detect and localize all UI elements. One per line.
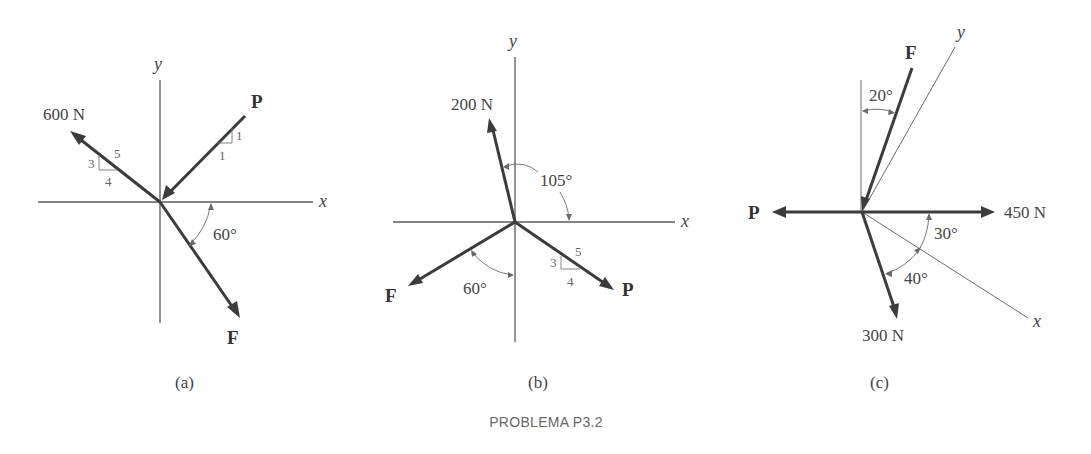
- angle-arc-b1: [505, 164, 538, 172]
- arc-arrowhead-icon: [885, 270, 892, 277]
- angle-label-b1: 105°: [540, 171, 572, 190]
- arc-arrowhead-icon: [471, 250, 477, 257]
- arc-arrowhead-icon: [566, 214, 572, 221]
- arc-arrowhead-icon: [508, 272, 514, 278]
- arrowhead-icon: [889, 303, 899, 319]
- slope-hyp-a1: 5: [114, 146, 121, 161]
- force-p-b: [515, 222, 607, 285]
- force-label-f-b: F: [385, 285, 397, 306]
- y-axis-label-b: y: [507, 31, 517, 51]
- slope-hyp-b: 5: [575, 244, 582, 259]
- slope-run-a1: 4: [105, 174, 112, 189]
- force-label-f-c: F: [905, 42, 917, 63]
- x-axis-label-c: x: [1032, 311, 1041, 331]
- y-axis-label-a: y: [152, 54, 162, 74]
- angle-label-b2: 60°: [463, 279, 487, 298]
- force-f-a: [160, 202, 236, 312]
- arrowhead-icon: [772, 206, 786, 218]
- angle-label-c1: 20°: [869, 86, 893, 105]
- arrowhead-icon: [599, 277, 614, 290]
- arc-arrowhead-icon: [862, 108, 868, 114]
- force-label-600n-a: 600 N: [43, 105, 85, 124]
- force-300n-c: [862, 212, 895, 310]
- panel-c: y x F 20° P 450 N 30° 300 N 40° (c: [748, 22, 1046, 392]
- slope-rise-a2: 1: [236, 128, 243, 143]
- figure-canvas: y x 600 N 3 4 5 P 1 1 F 60° (a) y x: [0, 0, 1091, 454]
- arc-arrowhead-icon: [208, 203, 214, 210]
- force-label-f-a: F: [227, 327, 239, 348]
- panel-b: y x 200 N 105° F 60° P 3 4 5 (b): [385, 31, 689, 392]
- arc-arrowhead-icon: [503, 163, 509, 170]
- slope-run-b: 4: [567, 274, 574, 289]
- force-label-p-a: P: [251, 91, 263, 112]
- slope-run-a2: 1: [219, 148, 226, 163]
- force-label-p-c: P: [748, 202, 760, 223]
- x-axis-label-a: x: [318, 191, 327, 211]
- caption-b: (b): [528, 373, 548, 392]
- force-label-200n-b: 200 N: [451, 95, 493, 114]
- arrowhead-icon: [408, 274, 423, 286]
- caption-c: (c): [870, 373, 889, 392]
- panel-a: y x 600 N 3 4 5 P 1 1 F 60° (a): [38, 54, 327, 392]
- caption-a: (a): [175, 373, 194, 392]
- arc-arrowhead-icon: [914, 247, 921, 254]
- angle-arc-b2: [472, 252, 512, 275]
- force-label-p-b: P: [622, 279, 634, 300]
- angle-label-c3: 40°: [904, 269, 928, 288]
- angle-arc-a: [190, 204, 211, 244]
- y-axis-label-c: y: [955, 22, 965, 42]
- force-label-450n-c: 450 N: [1004, 203, 1046, 222]
- figure-title: PROBLEMA P3.2: [489, 414, 603, 430]
- force-200n-b: [492, 126, 515, 222]
- arc-arrowhead-icon: [189, 239, 196, 246]
- arrowhead-icon: [981, 206, 995, 218]
- force-p-a: [167, 116, 245, 195]
- angle-label-c2: 30°: [934, 224, 958, 243]
- slope-rise-a1: 3: [88, 156, 95, 171]
- force-f-b: [415, 222, 515, 282]
- y-axis-c: [862, 47, 955, 212]
- arrowhead-icon: [861, 196, 870, 211]
- arc-arrowhead-icon: [888, 109, 895, 115]
- slope-rise-b: 3: [550, 255, 557, 270]
- arc-arrowhead-icon: [926, 213, 932, 220]
- angle-label-a: 60°: [213, 225, 237, 244]
- force-label-300n-c: 300 N: [862, 326, 904, 345]
- x-axis-label-b: x: [680, 211, 689, 231]
- arrowhead-icon: [487, 118, 497, 133]
